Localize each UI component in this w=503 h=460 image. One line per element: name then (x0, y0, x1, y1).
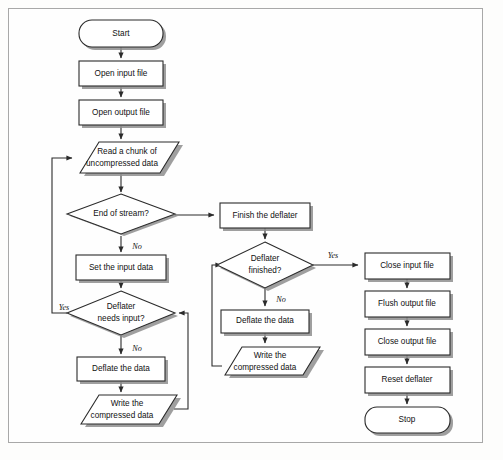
flowchart-svg: Start Open input file Open output file R… (0, 0, 503, 460)
node-start-label: Start (112, 29, 130, 38)
node-start: Start (79, 20, 166, 50)
node-close-input-file-label: Close input file (380, 261, 434, 270)
node-end-of-stream-label: End of stream? (93, 209, 149, 218)
node-read-chunk: Read a chunk of uncompressed data (80, 142, 183, 176)
node-write-compressed-right-line1: Write the (254, 351, 287, 360)
node-close-output-file-label: Close output file (378, 337, 437, 346)
node-flush-output-file: Flush output file (365, 291, 453, 320)
node-deflate-data-right-label: Deflate the data (236, 316, 294, 325)
node-open-input-file-label: Open input file (95, 69, 148, 78)
edge-label-deflater-finished-yes: Yes (328, 251, 339, 260)
node-write-compressed-left-line2: compressed data (91, 411, 154, 420)
node-set-input-data-label: Set the input data (89, 263, 154, 272)
node-deflate-data-right: Deflate the data (221, 310, 312, 336)
edge-label-needs-input-yes: Yes (59, 303, 70, 312)
node-write-compressed-right-line2: compressed data (234, 363, 297, 372)
node-flush-output-file-label: Flush output file (378, 299, 436, 308)
node-open-output-file: Open output file (79, 100, 166, 128)
edge-label-end-of-stream-no: No (131, 242, 142, 251)
node-stop: Stop (365, 407, 453, 436)
node-stop-label: Stop (399, 415, 416, 424)
edge-label-deflater-finished-no: No (275, 295, 286, 304)
node-deflater-finished-line1: Deflater (251, 254, 280, 263)
node-open-input-file: Open input file (79, 61, 166, 89)
node-reset-deflater-label: Reset deflater (382, 375, 433, 384)
node-read-chunk-label-line2: uncompressed data (86, 159, 158, 168)
node-reset-deflater: Reset deflater (365, 367, 453, 396)
node-deflater-needs-input-label-line1: Deflater (107, 302, 136, 311)
node-read-chunk-label-line1: Read a chunk of (97, 147, 157, 156)
node-finish-deflater-label: Finish the deflater (232, 211, 297, 220)
edge-needs-input-yes-loopback (52, 158, 72, 313)
node-write-compressed-right: Write the compressed data (225, 347, 324, 378)
node-set-input-data: Set the input data (76, 255, 169, 283)
node-deflate-data-left-label: Deflate the data (92, 364, 150, 373)
node-deflater-needs-input-label-line2: needs input? (98, 314, 145, 323)
node-finish-deflater: Finish the deflater (220, 203, 313, 231)
node-deflater-finished: Deflater finished? (217, 242, 316, 291)
node-write-compressed-left-line1: Write the (111, 399, 144, 408)
node-close-input-file: Close input file (365, 253, 453, 282)
node-open-output-file-label: Open output file (92, 108, 150, 117)
node-deflater-needs-input: Deflater needs input? (67, 291, 178, 338)
node-deflater-finished-line2: finished? (249, 266, 282, 275)
node-close-output-file: Close output file (365, 329, 453, 358)
node-write-compressed-left: Write the compressed data (81, 395, 181, 427)
node-deflate-data-left: Deflate the data (77, 357, 168, 384)
node-end-of-stream: End of stream? (67, 194, 178, 236)
diagram-canvas: Start Open input file Open output file R… (0, 0, 503, 460)
edge-label-needs-input-no: No (131, 344, 142, 353)
